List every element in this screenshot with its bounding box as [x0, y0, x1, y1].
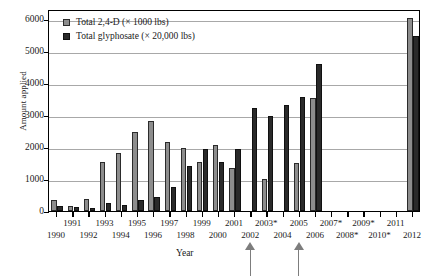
x-axis-tick [153, 212, 154, 217]
x-axis-tick [396, 212, 397, 217]
x-axis-tick-label: 2000 [209, 231, 227, 240]
arrow-stem [298, 250, 299, 276]
x-axis-tick-label: 2008* [336, 231, 359, 240]
x-axis-tick-label: 1994 [112, 231, 130, 240]
bar [148, 121, 153, 211]
x-axis-tick [283, 212, 284, 217]
legend: Total 2,4-D (× 1000 lbs) Total glyphosat… [63, 18, 195, 45]
x-axis-tick [121, 212, 122, 217]
legend-item-0: Total 2,4-D (× 1000 lbs) [63, 18, 195, 28]
bar [187, 166, 192, 211]
bar [213, 145, 218, 211]
bar [284, 105, 289, 211]
x-axis-tick-label: 2003* [255, 219, 278, 228]
x-axis-tick [169, 212, 170, 217]
x-axis-tick-label: 1995 [128, 219, 146, 228]
bar [294, 163, 299, 211]
bar [268, 116, 273, 211]
arrow-head [245, 242, 255, 250]
bar [235, 149, 240, 211]
bar [219, 162, 224, 211]
x-axis-tick [347, 212, 348, 217]
bar [413, 36, 418, 211]
x-axis-tick-label: 2005 [290, 219, 308, 228]
x-axis-tick-label: 2012 [403, 231, 421, 240]
x-axis-tick-label: 2004 [274, 231, 292, 240]
x-axis-tick [299, 212, 300, 217]
bar [74, 207, 79, 211]
x-axis-tick [88, 212, 89, 217]
bar [138, 200, 143, 211]
x-axis-tick [105, 212, 106, 217]
bar [132, 132, 137, 211]
x-axis-tick [186, 212, 187, 217]
bar [262, 179, 267, 211]
x-axis-tick [266, 212, 267, 217]
bar [165, 142, 170, 211]
x-axis-tick [234, 212, 235, 217]
legend-item-label: Total 2,4-D (× 1000 lbs) [76, 18, 169, 28]
bar [203, 149, 208, 211]
y-axis-tick-label: 4000 [4, 79, 44, 89]
x-axis-tick-label: 2011 [387, 219, 405, 228]
x-axis-tick [218, 212, 219, 217]
arrow-head [294, 242, 304, 250]
x-axis-tick-label: 1996 [144, 231, 162, 240]
x-axis: 1990199119921993199419951996199719981999… [48, 212, 420, 270]
x-axis-tick-label: 1991 [63, 219, 81, 228]
bar [100, 162, 105, 211]
x-axis-tick [137, 212, 138, 217]
y-axis-labels: 0100020003000400050006000 [0, 10, 44, 212]
bar [252, 108, 257, 211]
bar [171, 187, 176, 211]
x-axis-tick-label: 1990 [47, 231, 65, 240]
bar [122, 205, 127, 211]
bar [310, 98, 315, 211]
x-axis-tick [72, 212, 73, 217]
x-axis-tick [202, 212, 203, 217]
x-axis-tick [250, 212, 251, 217]
bar [84, 199, 89, 211]
annotation-up-arrow-icon [294, 242, 304, 276]
x-axis-title: Year [176, 248, 194, 258]
x-axis-tick-label: 1998 [177, 231, 195, 240]
x-axis-tick [331, 212, 332, 217]
x-axis-tick-label: 1992 [79, 231, 97, 240]
bar [229, 168, 234, 211]
x-axis-tick-label: 1997 [160, 219, 178, 228]
x-axis-tick [412, 212, 413, 217]
bar [90, 208, 95, 212]
x-axis-tick [315, 212, 316, 217]
legend-swatch-icon [63, 33, 70, 40]
x-axis-tick-label: 1993 [96, 219, 114, 228]
bar [197, 162, 202, 211]
y-axis-tick-label: 1000 [4, 175, 44, 185]
legend-swatch-icon [63, 19, 70, 26]
legend-item-1: Total glyphosate (× 20,000 lbs) [63, 32, 195, 42]
bar [68, 206, 73, 211]
x-axis-tick-label: 2009* [352, 219, 375, 228]
bar [407, 18, 412, 211]
x-axis-tick-label: 2002 [241, 231, 259, 240]
y-axis-tick-label: 0 [4, 207, 44, 217]
x-axis-tick-label: 2006 [306, 231, 324, 240]
x-axis-tick-label: 2007* [320, 219, 343, 228]
bar [316, 64, 321, 211]
bar [300, 97, 305, 211]
y-axis-tick-label: 6000 [4, 15, 44, 25]
legend-item-label: Total glyphosate (× 20,000 lbs) [76, 32, 195, 42]
y-axis-tick-label: 3000 [4, 111, 44, 121]
y-axis-tick-label: 2000 [4, 143, 44, 153]
bar [51, 200, 56, 211]
x-axis-tick-label: 1999 [193, 219, 211, 228]
bar [154, 197, 159, 211]
x-axis-tick-label: 2010* [368, 231, 391, 240]
arrow-stem [250, 250, 251, 276]
x-axis-tick [363, 212, 364, 217]
x-axis-tick [56, 212, 57, 217]
x-axis-tick-label: 2001 [225, 219, 243, 228]
x-axis-tick [380, 212, 381, 217]
bar [116, 153, 121, 211]
annotation-up-arrow-icon [245, 242, 255, 276]
